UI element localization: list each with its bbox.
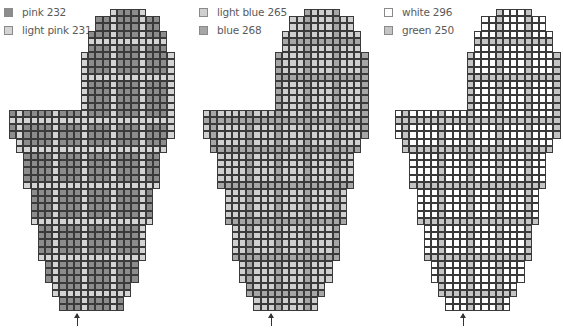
grid-cell (510, 153, 517, 160)
grid-cell (297, 283, 304, 290)
grid-cell (31, 175, 38, 182)
grid-cell (489, 52, 496, 59)
grid-cell (153, 117, 160, 124)
grid-cell (467, 103, 474, 110)
grid-cell (225, 175, 232, 182)
grid-cell (110, 9, 117, 16)
grid-cell (445, 304, 452, 311)
grid-cell (525, 88, 532, 95)
grid-cell (553, 131, 560, 138)
grid-cell (167, 95, 174, 102)
grid-cell (503, 268, 510, 275)
grid-cell (139, 254, 146, 261)
grid-cell (481, 304, 488, 311)
grid-cell (481, 16, 488, 23)
grid-cell (59, 283, 66, 290)
grid-cell (503, 9, 510, 16)
grid-cell (167, 52, 174, 59)
grid-cell (333, 182, 340, 189)
grid-cell (153, 38, 160, 45)
grid-cell (253, 160, 260, 167)
grid-cell (474, 59, 481, 66)
grid-cell (117, 124, 124, 131)
grid-cell (532, 182, 539, 189)
grid-cell (517, 146, 524, 153)
grid-cell (146, 95, 153, 102)
grid-cell (297, 160, 304, 167)
grid-cell (289, 275, 296, 282)
grid-cell (52, 160, 59, 167)
grid-cell (489, 31, 496, 38)
grid-cell (318, 131, 325, 138)
grid-cell (139, 146, 146, 153)
grid-cell (354, 59, 361, 66)
grid-cell (74, 117, 81, 124)
grid-cell (74, 268, 81, 275)
grid-cell (489, 254, 496, 261)
grid-cell (282, 275, 289, 282)
grid-cell (409, 110, 416, 117)
grid-cell (9, 110, 16, 117)
grid-cell (481, 218, 488, 225)
grid-cell (253, 211, 260, 218)
grid-cell (103, 110, 110, 117)
grid-cell (139, 45, 146, 52)
grid-cell (74, 304, 81, 311)
color-swatch-icon (4, 26, 13, 35)
grid-cell (438, 261, 445, 268)
grid-cell (239, 182, 246, 189)
grid-cell (354, 139, 361, 146)
grid-cell (275, 218, 282, 225)
grid-cell (124, 268, 131, 275)
grid-cell (517, 211, 524, 218)
grid-cell (297, 232, 304, 239)
grid-cell (304, 254, 311, 261)
grid-cell (496, 74, 503, 81)
grid-cell (95, 218, 102, 225)
grid-cell (45, 110, 52, 117)
grid-cell (52, 232, 59, 239)
grid-cell (453, 225, 460, 232)
grid-cell (510, 290, 517, 297)
grid-cell (489, 81, 496, 88)
grid-cell (347, 88, 354, 95)
grid-cell (409, 124, 416, 131)
grid-cell (110, 196, 117, 203)
grid-cell (525, 38, 532, 45)
grid-cell (239, 117, 246, 124)
grid-cell (275, 117, 282, 124)
grid-cell (275, 74, 282, 81)
grid-cell (275, 81, 282, 88)
grid-cell (167, 67, 174, 74)
grid-cell (510, 283, 517, 290)
grid-cell (395, 110, 402, 117)
grid-cell (225, 203, 232, 210)
grid-cell (460, 196, 467, 203)
legend-label: light blue 265 (217, 6, 287, 18)
grid-cell (496, 261, 503, 268)
grid-cell (347, 117, 354, 124)
grid-cell (124, 117, 131, 124)
grid-cell (481, 88, 488, 95)
grid-cell (167, 131, 174, 138)
grid-cell (460, 160, 467, 167)
grid-cell (311, 182, 318, 189)
grid-cell (445, 175, 452, 182)
grid-cell (81, 268, 88, 275)
grid-cell (453, 275, 460, 282)
grid-cell (417, 110, 424, 117)
grid-cell (304, 304, 311, 311)
grid-cell (503, 139, 510, 146)
grid-cell (246, 182, 253, 189)
grid-cell (103, 160, 110, 167)
grid-cell (282, 131, 289, 138)
grid-cell (275, 196, 282, 203)
grid-cell (503, 304, 510, 311)
grid-cell (525, 160, 532, 167)
grid-cell (289, 232, 296, 239)
grid-cell (467, 304, 474, 311)
grid-cell (268, 261, 275, 268)
grid-cell (88, 59, 95, 66)
grid-cell (325, 225, 332, 232)
grid-cell (239, 239, 246, 246)
